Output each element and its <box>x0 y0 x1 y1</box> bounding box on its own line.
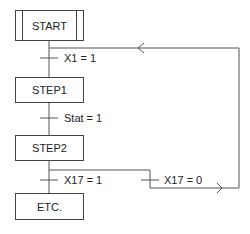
step-step2: STEP2 <box>15 135 84 161</box>
step-etc: ETC. <box>15 193 84 220</box>
initial-step-marker <box>22 11 23 40</box>
step-label: STEP2 <box>32 142 67 154</box>
step-label: START <box>32 20 67 32</box>
step-label: STEP1 <box>32 84 67 96</box>
step-step1: STEP1 <box>15 77 84 103</box>
transition-label: X17 = 0 <box>164 174 202 186</box>
transition-label: Stat = 1 <box>64 112 102 124</box>
step-start: START <box>15 10 84 41</box>
initial-step-marker <box>76 11 77 40</box>
step-label: ETC. <box>37 201 62 213</box>
transition-label: X17 = 1 <box>64 174 102 186</box>
transition-label: X1 = 1 <box>64 52 96 64</box>
